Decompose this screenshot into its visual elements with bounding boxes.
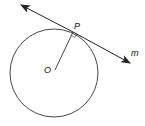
tangent-line-m-extension: [73, 32, 130, 63]
radius-op: [55, 32, 73, 70]
label-o: O: [44, 65, 51, 75]
circle: [10, 29, 98, 117]
tangent-diagram: P O m: [0, 0, 145, 126]
label-m: m: [131, 48, 139, 58]
tangent-line-m: [21, 5, 73, 32]
label-p: P: [74, 21, 80, 31]
